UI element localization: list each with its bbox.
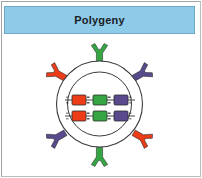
chromosome-top [91,44,107,63]
title-banner: Polygeny [4,6,195,34]
gene-a1 [72,95,86,105]
gene-b2 [93,111,107,121]
polygeny-cell-diagram [4,36,195,173]
chromosome-bar-top [65,95,135,105]
figure-root: Polygeny [0,0,202,178]
chromosome-icon [91,148,107,167]
chromosome-bottom [91,148,107,167]
chromosome-icon [91,44,107,63]
chromosome-bar-bottom [65,111,135,121]
gene-b1 [93,95,107,105]
gene-c2 [114,111,128,121]
page-title: Polygeny [74,15,125,26]
diagram-content-area [4,36,195,173]
gene-a2 [72,111,86,121]
gene-c1 [114,95,128,105]
